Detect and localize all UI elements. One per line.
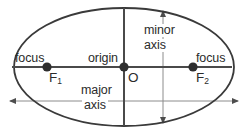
focus-left-point-subscript: 1 [57,76,62,86]
origin-label: origin [88,52,118,65]
origin-point-label: O [128,71,138,85]
ellipse-diagram: focus F1 origin O focus F2 minor axis ma… [0,0,244,136]
focus-left-point-label: F1 [49,71,62,86]
focus-right-label: focus [196,52,225,65]
minor-axis-label-line2: axis [142,39,168,52]
diagram-canvas [0,0,244,136]
focus-right-point-label: F2 [196,71,209,86]
focus-right-point-subscript: 2 [204,76,209,86]
major-axis-label-line1: major [79,84,114,97]
focus-left-label: focus [15,52,44,65]
focus-left-point-letter: F [49,70,57,85]
major-axis-label-line2: axis [82,99,108,112]
minor-axis-label-line1: minor [142,24,177,37]
focus-right-point-letter: F [196,70,204,85]
